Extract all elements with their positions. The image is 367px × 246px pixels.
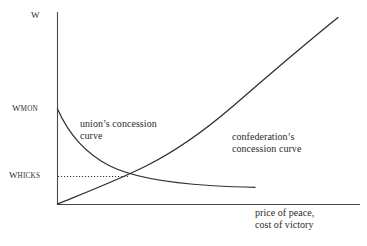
x-axis-label-line2: cost of victory xyxy=(255,219,314,231)
x-axis-label: price of peace, cost of victory xyxy=(255,207,314,231)
y-tick-w-hicks-base: W xyxy=(9,170,18,180)
union-curve-label-line1: union’s concession xyxy=(80,118,157,130)
confederation-curve-label-line1: confederation’s xyxy=(232,131,301,143)
x-axis-label-line1: price of peace, xyxy=(255,207,314,219)
y-tick-w-hicks-subscript: HICKS xyxy=(18,172,41,180)
union-curve-label-line2: curve xyxy=(80,130,157,142)
confederation-curve-label-line2: concession curve xyxy=(232,143,301,155)
y-tick-w-mon-subscript: MON xyxy=(21,105,38,113)
y-axis-label: W xyxy=(31,10,40,21)
union-concession-curve-label: union’s concession curve xyxy=(80,118,157,142)
confederation-concession-curve-label: confederation’s concession curve xyxy=(232,131,301,155)
confederation-concession-curve xyxy=(58,18,339,205)
economics-concession-curve-figure: W WMON WHICKS union’s concession curve c… xyxy=(0,0,367,246)
y-tick-w-mon-base: W xyxy=(12,103,21,113)
y-tick-label-w-mon: WMON xyxy=(12,103,38,114)
y-tick-label-w-hicks: WHICKS xyxy=(9,170,40,181)
